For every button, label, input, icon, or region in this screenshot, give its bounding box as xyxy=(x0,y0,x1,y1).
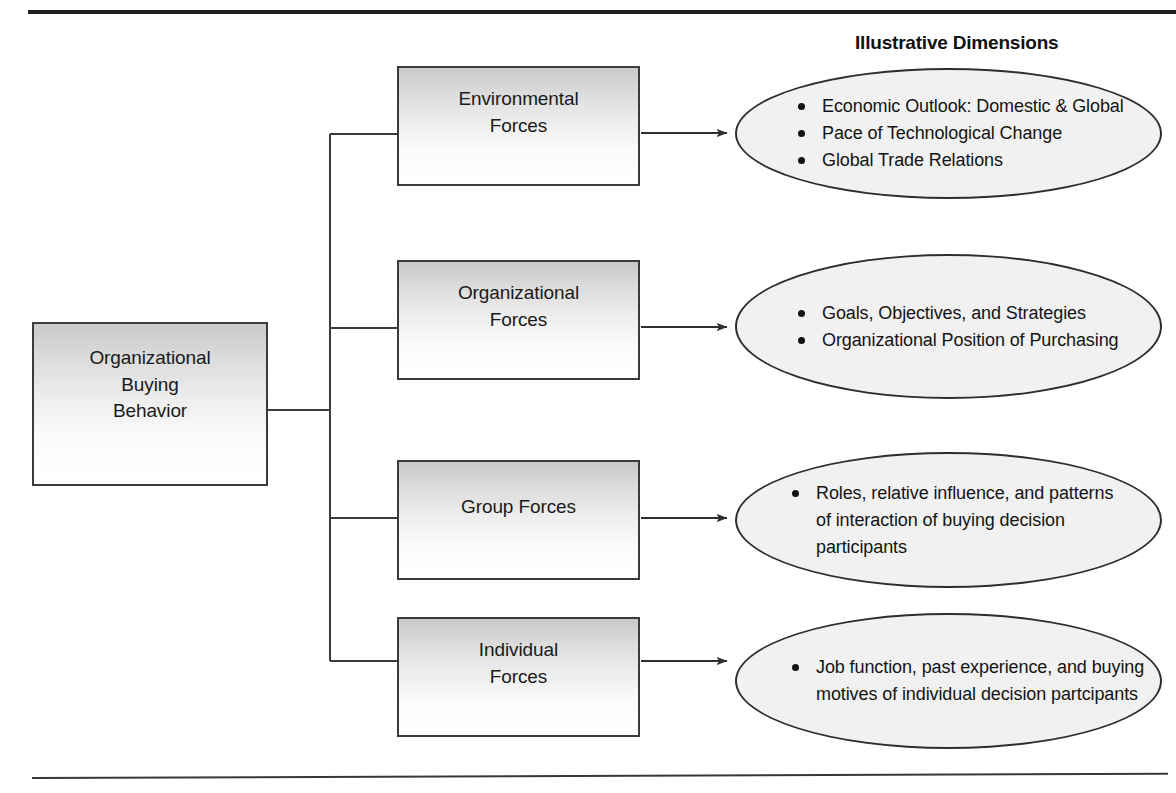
dimension-item: Economic Outlook: Domestic & Global xyxy=(795,93,1124,120)
dimensions-ellipse-group[interactable]: Roles, relative influence, and patterns … xyxy=(735,452,1162,588)
root-node-label: Organizational Buying Behavior xyxy=(89,345,210,464)
dimension-item: Global Trade Relations xyxy=(795,147,1124,174)
dimensions-ellipse-organizational[interactable]: Goals, Objectives, and Strategies Organi… xyxy=(735,254,1162,399)
dimensions-list: Goals, Objectives, and Strategies Organi… xyxy=(795,300,1118,354)
branch-node-label: Environmental Forces xyxy=(458,86,578,166)
root-node-organizational-buying-behavior[interactable]: Organizational Buying Behavior xyxy=(32,322,268,486)
dimensions-list: Economic Outlook: Domestic & Global Pace… xyxy=(795,93,1124,174)
dimension-item: Roles, relative influence, and patterns … xyxy=(789,480,1160,561)
branch-node-group-forces[interactable]: Group Forces xyxy=(397,460,640,580)
dimension-item: Job function, past experience, and buyin… xyxy=(789,654,1144,708)
dimension-item: Organizational Position of Purchasing xyxy=(795,327,1118,354)
dimension-item: Goals, Objectives, and Strategies xyxy=(795,300,1118,327)
branch-node-label: Group Forces xyxy=(461,494,576,547)
branch-node-organizational-forces[interactable]: Organizational Forces xyxy=(397,260,640,380)
dimensions-list: Job function, past experience, and buyin… xyxy=(789,654,1144,708)
branch-node-label: Individual Forces xyxy=(479,637,558,717)
branch-node-environmental-forces[interactable]: Environmental Forces xyxy=(397,66,640,186)
dimensions-list: Roles, relative influence, and patterns … xyxy=(789,480,1160,561)
dimensions-ellipse-environmental[interactable]: Economic Outlook: Domestic & Global Pace… xyxy=(735,68,1162,199)
figure-organizational-buying-behavior: Illustrative Dimensions Organizat xyxy=(0,0,1176,793)
branch-node-label: Organizational Forces xyxy=(458,280,579,360)
dimension-item: Pace of Technological Change xyxy=(795,120,1124,147)
dimensions-ellipse-individual[interactable]: Job function, past experience, and buyin… xyxy=(735,613,1162,749)
branch-node-individual-forces[interactable]: Individual Forces xyxy=(397,617,640,737)
